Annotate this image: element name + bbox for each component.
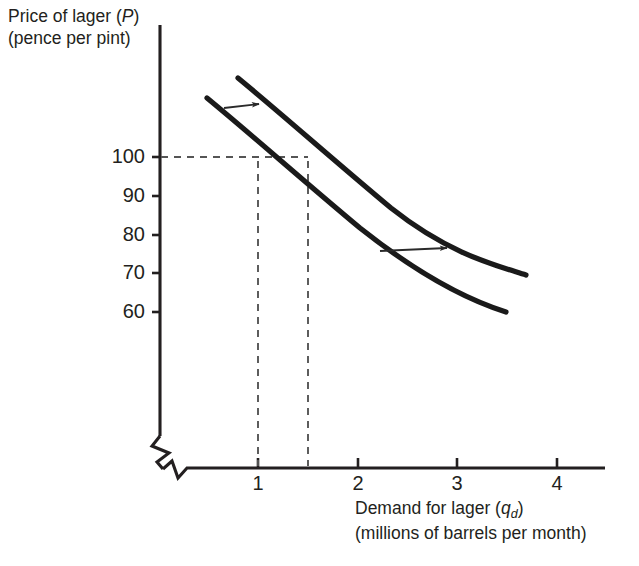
demand-curve-figure: Price of lager (P)(pence per pint) Deman… — [0, 0, 639, 566]
x-axis-line — [163, 461, 605, 478]
plot-canvas — [0, 0, 639, 566]
shift-arrow-upper-icon — [224, 104, 259, 108]
original-demand-curve — [207, 98, 506, 312]
